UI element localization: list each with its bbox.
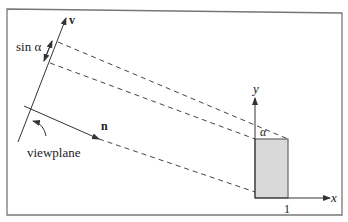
alpha-angle-label: α	[260, 125, 267, 139]
projector-line-bottom	[99, 139, 255, 192]
sin-alpha-label: sin α	[16, 39, 41, 54]
viewplane-pointer-arrow	[33, 121, 46, 136]
unit-tick-label: 1	[284, 202, 290, 216]
y-axis-label: y	[251, 81, 259, 96]
diagram-canvas: v sin α n viewplane y x α 1	[0, 0, 348, 222]
viewplane-label: viewplane	[27, 145, 81, 160]
x-axis-label: x	[330, 190, 337, 205]
oblique-projection-diagram: v sin α n viewplane y x α 1	[0, 0, 348, 222]
n-vector-label: n	[101, 119, 108, 133]
n-vector	[24, 106, 99, 139]
projector-line-middle	[50, 63, 255, 139]
v-vector-label: v	[69, 13, 75, 27]
unit-square	[255, 139, 288, 198]
viewplane-line	[18, 18, 66, 142]
